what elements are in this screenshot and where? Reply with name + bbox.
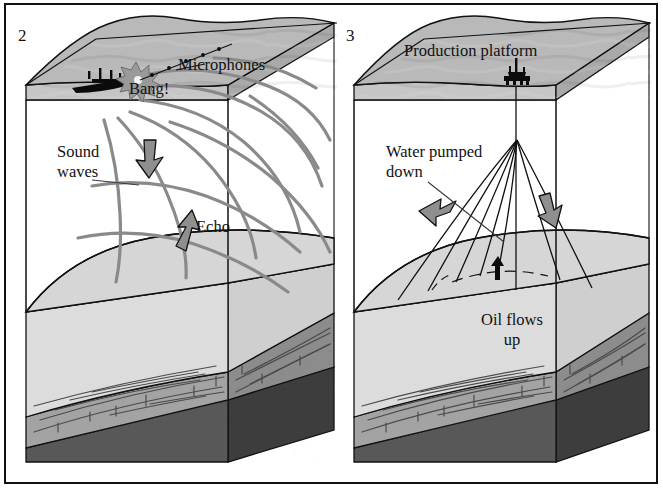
figure-root: 2 Microphones Bang! Sound waves Echo: [0, 0, 663, 491]
panel-2-number: 2: [18, 26, 27, 45]
panel-2: 2 Microphones Bang! Sound waves Echo: [18, 10, 350, 462]
label-sound-waves-line1: Sound: [57, 142, 100, 161]
label-oil-flows-line2: up: [504, 330, 521, 349]
sea-water-slab-right: [348, 10, 658, 110]
label-oil-flows-line1: Oil flows: [481, 310, 543, 329]
label-echo: Echo: [196, 217, 230, 236]
water-down-arrow-left: [419, 199, 456, 226]
label-water-pumped-line2: down: [386, 162, 423, 181]
label-water-pumped-line1: Water pumped: [386, 142, 483, 161]
label-sound-waves-line2: waves: [57, 162, 98, 181]
label-microphones: Microphones: [178, 55, 265, 74]
diagram-canvas: 2 Microphones Bang! Sound waves Echo: [0, 0, 663, 491]
label-bang: Bang!: [129, 79, 169, 98]
label-production-platform: Production platform: [404, 41, 538, 60]
panel-3: 3 Production platform Water pumped down …: [346, 10, 658, 462]
panel-3-number: 3: [346, 26, 355, 45]
